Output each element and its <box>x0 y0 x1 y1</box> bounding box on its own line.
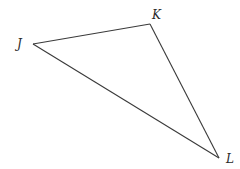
vertex-label-j: J <box>14 37 23 51</box>
edge-kl <box>150 24 219 158</box>
edge-lj <box>33 44 219 158</box>
vertex-label-k: K <box>151 8 162 22</box>
vertex-label-l: L <box>225 152 234 166</box>
edge-jk <box>33 24 150 44</box>
triangle-diagram: J K L <box>0 0 240 169</box>
